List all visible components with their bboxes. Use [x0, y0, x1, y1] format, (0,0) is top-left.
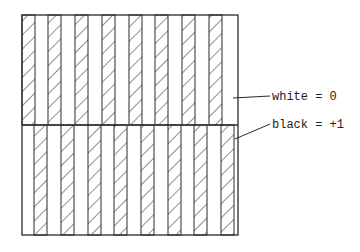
hatched-stripe — [102, 15, 115, 125]
black-label: black = +1 — [272, 118, 344, 132]
hatched-stripe — [182, 15, 195, 125]
hatched-stripe — [22, 15, 35, 125]
top-half-stripes — [22, 15, 222, 125]
hatched-stripe — [168, 125, 181, 235]
hatched-stripe — [75, 15, 88, 125]
hatched-stripe — [48, 15, 61, 125]
hatched-stripe — [88, 125, 101, 235]
hatched-stripe — [61, 125, 74, 235]
hatched-stripe — [221, 125, 234, 235]
hatched-stripe — [155, 15, 168, 125]
bottom-half-stripes — [34, 125, 234, 235]
hatched-stripe — [194, 125, 207, 235]
hatched-stripe — [34, 125, 47, 235]
hatched-stripe — [114, 125, 127, 235]
white-label: white = 0 — [272, 90, 337, 104]
hatched-stripe — [141, 125, 154, 235]
black-leader-line — [235, 124, 270, 139]
hatched-stripe — [209, 15, 222, 125]
hatched-stripe — [129, 15, 142, 125]
